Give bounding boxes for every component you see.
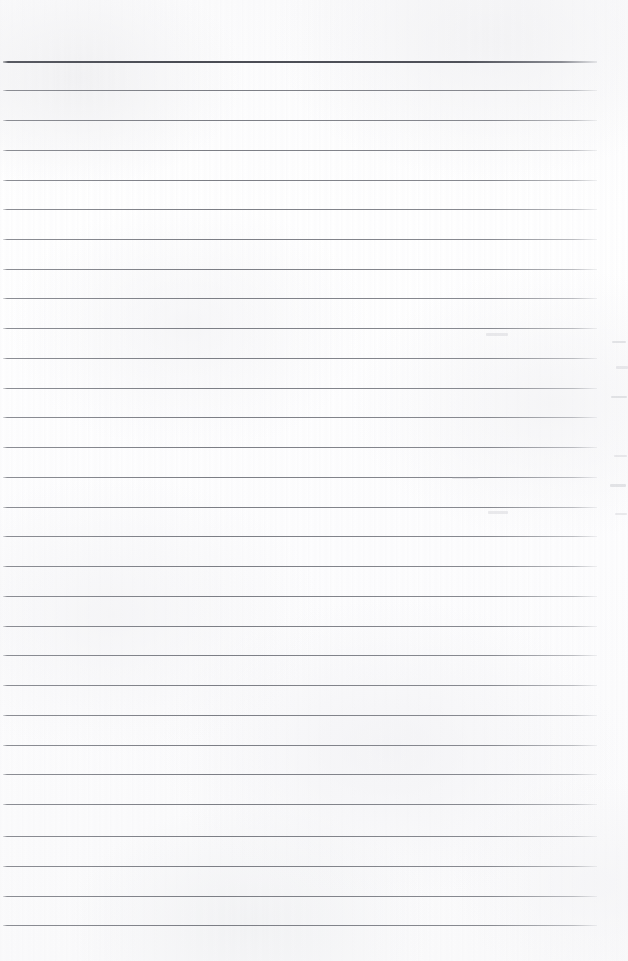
ruled-line [3,896,597,897]
ruled-line [3,358,597,359]
scan-smudge [614,455,627,457]
scan-smudge [488,511,508,514]
ruled-line [3,566,597,567]
ruled-line [3,836,597,837]
ruled-line [3,536,597,537]
ruled-line [3,804,597,805]
ruled-line [3,120,597,121]
ruled-line [3,417,597,418]
ruled-line [3,269,597,270]
scan-smudge [612,341,626,343]
header-rule [3,61,597,63]
ruled-line [3,328,597,329]
ruled-line [3,925,597,926]
ruled-line [3,150,597,151]
ruled-line [3,209,597,210]
scan-smudge [486,333,508,336]
paper-texture-overlay [0,0,628,961]
ruled-line [3,745,597,746]
ruled-line [3,596,597,597]
ruled-line [3,298,597,299]
ruled-line [3,388,597,389]
scan-smudge [610,484,626,487]
ruled-line [3,626,597,627]
scanned-notebook-page [0,0,628,961]
ruled-line [3,447,597,448]
ruled-line [3,507,597,508]
ruled-line [3,866,597,867]
scan-smudge [611,396,627,398]
ruled-line [3,90,597,91]
scan-smudge [615,513,627,515]
ruled-line [3,774,597,775]
ruled-line [3,477,597,478]
ruled-line [3,239,597,240]
ruled-line [3,685,597,686]
ruled-line [3,715,597,716]
ruled-line [3,655,597,656]
scan-smudge [616,366,628,369]
ruled-line [3,180,597,181]
